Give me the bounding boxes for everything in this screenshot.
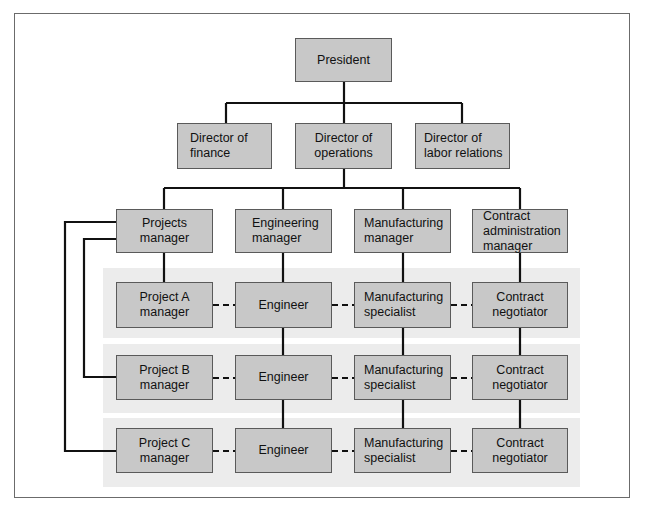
director-finance-box: Director of finance [177,123,272,169]
specialist-a-box: Manufacturing specialist [354,282,451,328]
director-labor-label: Director of labor relations [424,131,503,161]
project-c-manager-box: Project C manager [116,428,213,473]
president-label: President [317,53,370,68]
president-box: President [295,38,392,82]
negotiator-c-label: Contract negotiator [492,436,548,466]
project-b-manager-box: Project B manager [116,355,213,400]
specialist-b-label: Manufacturing specialist [364,363,443,393]
specialist-c-label: Manufacturing specialist [364,436,443,466]
specialist-c-box: Manufacturing specialist [354,428,451,473]
negotiator-a-box: Contract negotiator [472,282,568,328]
engineer-b-box: Engineer [235,355,332,400]
specialist-a-label: Manufacturing specialist [364,290,443,320]
negotiator-b-box: Contract negotiator [472,355,568,400]
project-a-manager-label: Project A manager [139,290,189,320]
director-operations-box: Director of operations [295,123,392,169]
engineering-manager-label: Engineering manager [252,216,319,246]
contract-admin-manager-box: Contract administration manager [472,209,568,253]
negotiator-c-box: Contract negotiator [472,428,568,473]
projects-manager-label: Projects manager [140,216,189,246]
engineer-b-label: Engineer [258,370,308,385]
project-b-manager-label: Project B manager [139,363,190,393]
manufacturing-manager-label: Manufacturing manager [364,216,443,246]
director-operations-label: Director of operations [314,131,372,161]
director-finance-label: Director of finance [190,131,248,161]
negotiator-b-label: Contract negotiator [492,363,548,393]
specialist-b-box: Manufacturing specialist [354,355,451,400]
project-c-manager-label: Project C manager [139,436,190,466]
negotiator-a-label: Contract negotiator [492,290,548,320]
contract-admin-manager-label: Contract administration manager [483,209,561,254]
engineer-a-box: Engineer [235,282,332,328]
director-labor-box: Director of labor relations [415,123,510,169]
engineering-manager-box: Engineering manager [235,209,332,253]
engineer-c-box: Engineer [235,428,332,473]
manufacturing-manager-box: Manufacturing manager [354,209,451,253]
engineer-a-label: Engineer [258,298,308,313]
projects-manager-box: Projects manager [116,209,213,253]
engineer-c-label: Engineer [258,443,308,458]
project-a-manager-box: Project A manager [116,282,213,328]
